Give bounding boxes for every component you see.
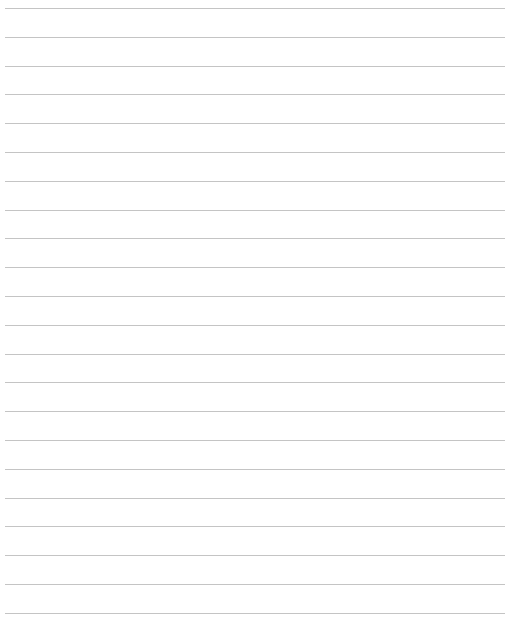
ruled-line — [5, 152, 505, 153]
ruled-line — [5, 210, 505, 211]
ruled-line — [5, 37, 505, 38]
ruled-line — [5, 498, 505, 499]
ruled-line — [5, 238, 505, 239]
ruled-line — [5, 66, 505, 67]
ruled-line — [5, 123, 505, 124]
ruled-line — [5, 354, 505, 355]
ruled-line — [5, 584, 505, 585]
ruled-line — [5, 296, 505, 297]
ruled-line — [5, 613, 505, 614]
ruled-line — [5, 526, 505, 527]
ruled-line — [5, 411, 505, 412]
ruled-line — [5, 8, 505, 9]
ruled-line — [5, 325, 505, 326]
ruled-line — [5, 440, 505, 441]
ruled-line — [5, 469, 505, 470]
ruled-line — [5, 267, 505, 268]
lined-paper-sheet — [0, 0, 509, 634]
ruled-line — [5, 382, 505, 383]
ruled-line — [5, 94, 505, 95]
ruled-line — [5, 181, 505, 182]
ruled-line — [5, 555, 505, 556]
